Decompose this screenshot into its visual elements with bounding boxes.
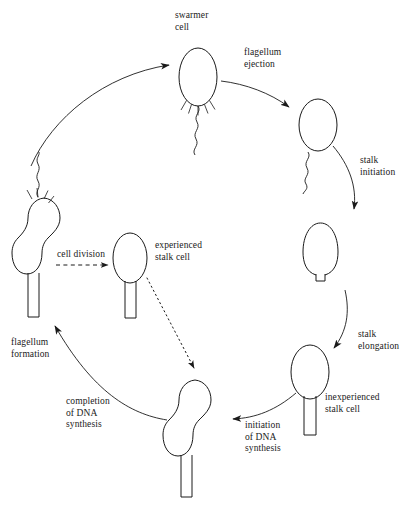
label-cell-division: cell division [57, 249, 105, 261]
stalk-initiation-cell-shape [303, 223, 338, 281]
label-flagellum-formation: flagellum formation [11, 337, 49, 360]
inexperienced-stalk-cell-shape [291, 345, 329, 435]
arrow-experienced-to-predivisional [147, 278, 194, 368]
arrow-initiation-dna-synthesis [233, 393, 296, 419]
arrow-stalk-initiation [333, 146, 355, 209]
pili-icon [27, 188, 54, 203]
label-initiation-of-dna-synthesis: initiation of DNA synthesis [245, 420, 281, 455]
arrow-stalk-elongation [334, 290, 347, 348]
predivisional-cell-shape [163, 380, 211, 497]
label-completion-of-dna-synthesis: completion of DNA synthesis [66, 396, 110, 431]
flagellum-ejected-cell-shape [299, 99, 337, 194]
label-inexperienced-stalk-cell: inexperienced stalk cell [325, 392, 380, 415]
detached-flagellum-icon [303, 152, 309, 194]
flagellated-predivisional-cell-shape [12, 152, 60, 317]
label-stalk-elongation: stalk elongation [358, 329, 399, 352]
flagellum-icon [37, 152, 39, 197]
experienced-stalk-cell-shape [113, 233, 147, 318]
label-swarmer-cell: swarmer cell [175, 10, 208, 33]
label-experienced-stalk-cell: experienced stalk cell [155, 240, 202, 263]
arrow-flagellum-ejection [221, 81, 289, 107]
cell-cycle-diagram: swarmer cell flagellum ejection stalk in… [0, 0, 417, 507]
arrow-flagellum-formation [31, 65, 169, 166]
swarmer-cell-shape [179, 48, 217, 155]
label-flagellum-ejection: flagellum ejection [244, 47, 281, 70]
label-stalk-initiation: stalk initiation [360, 155, 395, 178]
